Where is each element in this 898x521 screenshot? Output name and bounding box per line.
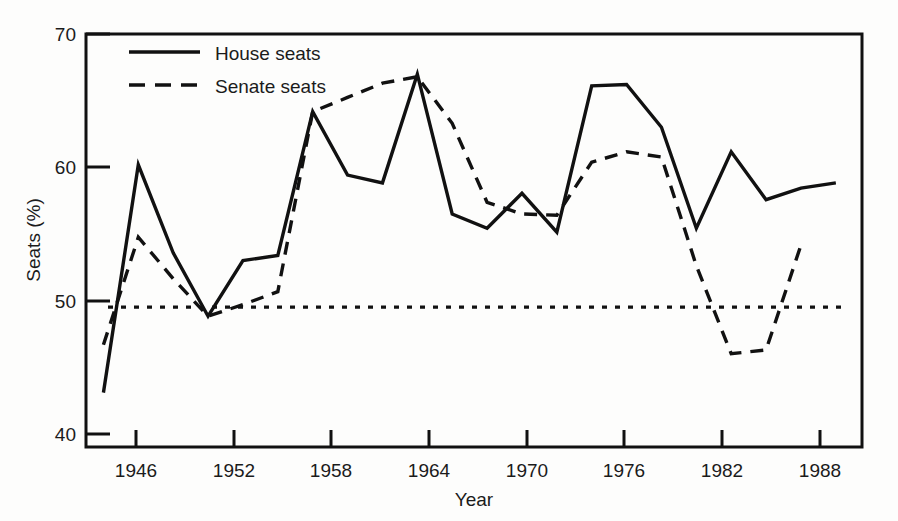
x-tick-label-1958: 1958 bbox=[310, 460, 352, 481]
plot-frame bbox=[86, 34, 862, 447]
y-axis-title: Seats (%) bbox=[23, 198, 44, 281]
x-tick-label-1976: 1976 bbox=[603, 460, 645, 481]
x-axis-title: Year bbox=[455, 489, 494, 510]
x-tick-label-1952: 1952 bbox=[213, 460, 255, 481]
legend-label-house-seats: House seats bbox=[215, 43, 321, 64]
x-tick-label-1982: 1982 bbox=[701, 460, 743, 481]
x-tick-label-1946: 1946 bbox=[115, 460, 157, 481]
x-axis-ticks bbox=[136, 430, 820, 447]
line-chart-svg: 70 60 50 40 Seats (%) 1946 1952 1958 196… bbox=[0, 0, 898, 521]
chart-legend: House seats Senate seats bbox=[129, 43, 326, 97]
y-tick-label-40: 40 bbox=[55, 424, 76, 445]
y-tick-label-60: 60 bbox=[55, 157, 76, 178]
series-line-house-seats bbox=[103, 74, 835, 392]
x-tick-label-1970: 1970 bbox=[506, 460, 548, 481]
x-tick-label-1964: 1964 bbox=[408, 460, 451, 481]
chart-figure: 70 60 50 40 Seats (%) 1946 1952 1958 196… bbox=[0, 0, 898, 521]
y-tick-label-50: 50 bbox=[55, 291, 76, 312]
legend-label-senate-seats: Senate seats bbox=[215, 76, 326, 97]
y-tick-label-70: 70 bbox=[55, 24, 76, 45]
x-tick-label-1988: 1988 bbox=[799, 460, 841, 481]
